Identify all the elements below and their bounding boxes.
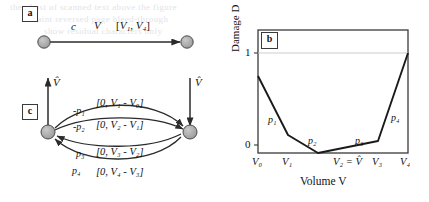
panel-a-graph <box>38 36 193 48</box>
panel-c-arc-3-capacity: [0, V₃ - V₂] <box>96 146 144 157</box>
panel-a-cost-label: c <box>71 20 76 32</box>
panel-b-label: b <box>261 32 278 49</box>
panel-a-interval-range: V₁, V₄ <box>120 19 147 31</box>
panel-c-outflow-label: V̂ <box>195 76 202 88</box>
chart-xtick-label-0: V₀ <box>252 156 262 167</box>
chart-y-axis-label-text: Damage D <box>229 5 241 52</box>
chart-xtick-label-4: V₄ <box>400 156 410 167</box>
chart-ytick-label-0: 0 <box>245 138 251 150</box>
panel-c-arc-4-capacity: [0, V₄ - V₃] <box>96 166 144 177</box>
panel-a-interval-label: [V₁, V₄] <box>116 19 150 31</box>
chart-plot-frame <box>258 30 408 153</box>
panel-a-source-node <box>38 36 50 48</box>
panel-c-arc-4-cost: p₄ <box>72 165 80 176</box>
chart-segment-label-p2: p₂ <box>308 135 316 146</box>
chart-segment-label-p4: p₄ <box>391 112 399 123</box>
panel-a-sink-node <box>181 36 193 48</box>
panel-c-arc-2-cost: -p₂ <box>73 121 85 132</box>
panel-a-label: a <box>22 6 38 22</box>
panel-c-inflow-label: V̂ <box>53 76 60 88</box>
chart-ytick-label-1: 1 <box>245 46 251 58</box>
panel-c-arc-2-capacity: [0, V₂ - V₁] <box>96 119 144 130</box>
panel-c-arc-3 <box>57 134 181 146</box>
chart-segment-label-p3: p₃ <box>355 135 363 146</box>
panel-a-bracket-close: ] <box>146 19 150 31</box>
chart-xtick-label-3: V₃ <box>372 156 382 167</box>
chart-segment-label-p1: p₁ <box>268 114 276 125</box>
chart-xtick-label-2: V₂ = V̂ <box>333 156 362 167</box>
chart-xtick-label-1: V₁ <box>282 156 292 167</box>
panel-c-right-node <box>183 125 197 139</box>
chart-y-axis-label: Damage D <box>229 5 241 52</box>
panel-c-arc-3-cost: p₃ <box>76 148 84 159</box>
figure-canvas <box>0 0 429 202</box>
panel-c-arc-1-cost: -p₁ <box>73 105 85 116</box>
panel-a-flow-label: V <box>94 19 101 31</box>
panel-c-left-node <box>41 125 55 139</box>
chart-x-axis-label: Volume V <box>300 175 347 187</box>
panel-c-label: c <box>22 104 38 120</box>
panel-c-arc-1-capacity: [0, V₁ - V₀] <box>96 97 144 108</box>
